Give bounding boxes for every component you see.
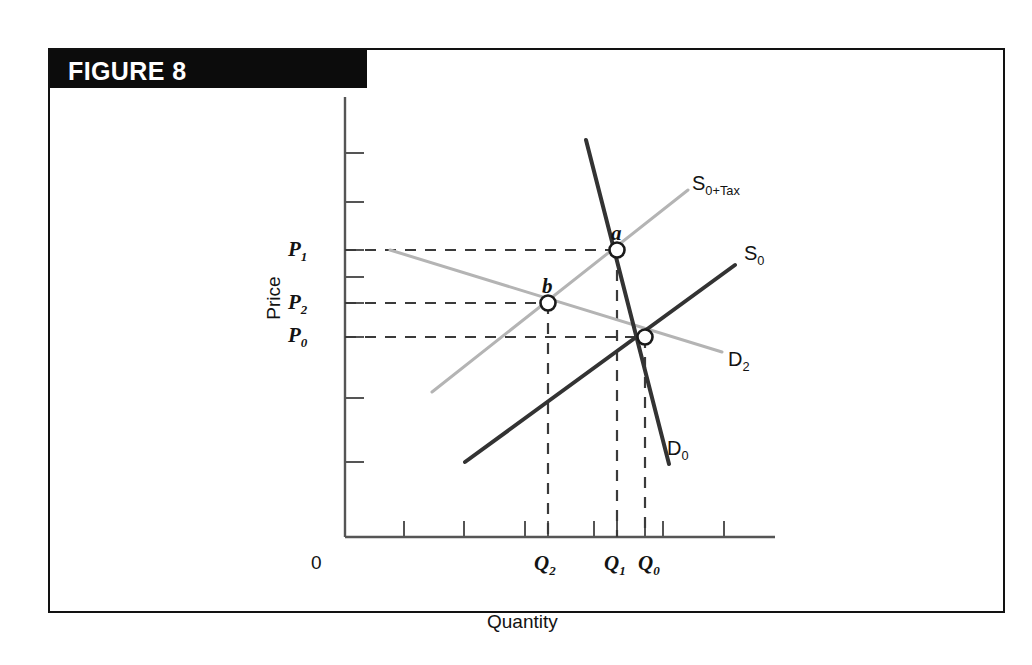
price-tick-p1-main: P bbox=[288, 237, 301, 261]
curve-label-d2-sub: 2 bbox=[742, 359, 749, 374]
curve-label-d0: D0 bbox=[667, 437, 689, 463]
quantity-tick-q2-sub: 2 bbox=[549, 563, 556, 578]
point-label-b: b bbox=[542, 274, 553, 299]
curve-label-s0-tax: S0+Tax bbox=[692, 172, 740, 198]
price-tick-p0: P0 bbox=[288, 323, 307, 351]
point-label-a: a bbox=[611, 221, 622, 246]
curve-label-d2-main: D bbox=[728, 348, 742, 370]
y-axis-title: Price bbox=[263, 276, 285, 319]
price-tick-p2-sub: 2 bbox=[301, 302, 308, 317]
curve-label-s0-tax-main: S bbox=[692, 172, 705, 194]
price-tick-p2: P2 bbox=[288, 290, 307, 318]
quantity-tick-q1-main: Q bbox=[604, 551, 619, 575]
quantity-tick-q2-main: Q bbox=[534, 551, 549, 575]
quantity-tick-q1: Q1 bbox=[604, 551, 626, 579]
price-tick-p0-main: P bbox=[288, 323, 301, 347]
curve-label-s0: S0 bbox=[744, 242, 764, 268]
price-tick-p2-main: P bbox=[288, 290, 301, 314]
figure-title: FIGURE 8 bbox=[68, 57, 187, 86]
quantity-tick-q1-sub: 1 bbox=[619, 563, 626, 578]
figure-header-bar: FIGURE 8 bbox=[50, 50, 367, 88]
curve-label-d0-sub: 0 bbox=[681, 448, 688, 463]
price-tick-p0-sub: 0 bbox=[301, 335, 308, 350]
origin-label: 0 bbox=[311, 552, 322, 574]
quantity-tick-q0: Q0 bbox=[638, 551, 660, 579]
figure-frame: FIGURE 8 bbox=[48, 48, 1005, 613]
curve-label-s0-tax-sub: 0+Tax bbox=[705, 183, 740, 198]
price-tick-p1-sub: 1 bbox=[301, 249, 308, 264]
x-axis-title: Quantity bbox=[487, 611, 558, 633]
curve-label-d2: D2 bbox=[728, 348, 750, 374]
price-tick-p1: P1 bbox=[288, 237, 307, 265]
quantity-tick-q0-main: Q bbox=[638, 551, 653, 575]
curve-label-d0-main: D bbox=[667, 437, 681, 459]
quantity-tick-q0-sub: 0 bbox=[653, 563, 660, 578]
curve-label-s0-sub: 0 bbox=[757, 253, 764, 268]
curve-label-s0-main: S bbox=[744, 242, 757, 264]
quantity-tick-q2: Q2 bbox=[534, 551, 556, 579]
